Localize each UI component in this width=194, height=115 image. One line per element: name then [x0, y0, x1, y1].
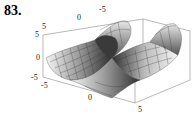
tick-back-top-left: 5 — [42, 22, 46, 31]
surface — [46, 21, 182, 98]
tick-bottom-left: -5 — [41, 81, 48, 90]
tick-left-top: 5 — [35, 30, 39, 39]
tick-left-bottom: -5 — [31, 73, 38, 82]
surface-plot: 5 5 0 -5 0 -5 -5 0 5 — [0, 0, 194, 115]
tick-bottom-mid: 0 — [88, 93, 92, 102]
tick-top-edge-right: -5 — [99, 5, 106, 14]
tick-bottom-right: 5 — [138, 105, 142, 114]
tick-top-edge-mid: 0 — [77, 13, 81, 22]
tick-left-mid: 0 — [36, 53, 40, 62]
